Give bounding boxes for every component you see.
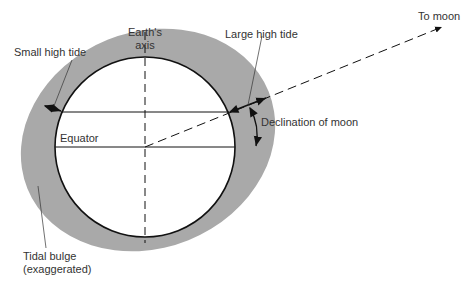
- tidal-diagram: [0, 0, 476, 290]
- tidal-bulge-label: Tidal bulge (exaggerated): [23, 250, 92, 276]
- declination-label: Declination of moon: [261, 116, 358, 129]
- earth-axis-label-line2: axis: [128, 39, 162, 52]
- small-high-tide-label: Small high tide: [14, 46, 86, 59]
- tidal-bulge-label-line2: (exaggerated): [23, 263, 92, 276]
- earth-axis-label: Earth's axis: [128, 26, 162, 52]
- to-moon-label: To moon: [418, 10, 460, 23]
- large-high-tide-label: Large high tide: [225, 28, 298, 41]
- earth-axis-label-line1: Earth's: [128, 26, 162, 39]
- tidal-bulge-label-line1: Tidal bulge: [23, 250, 92, 263]
- equator-label: Equator: [60, 132, 99, 145]
